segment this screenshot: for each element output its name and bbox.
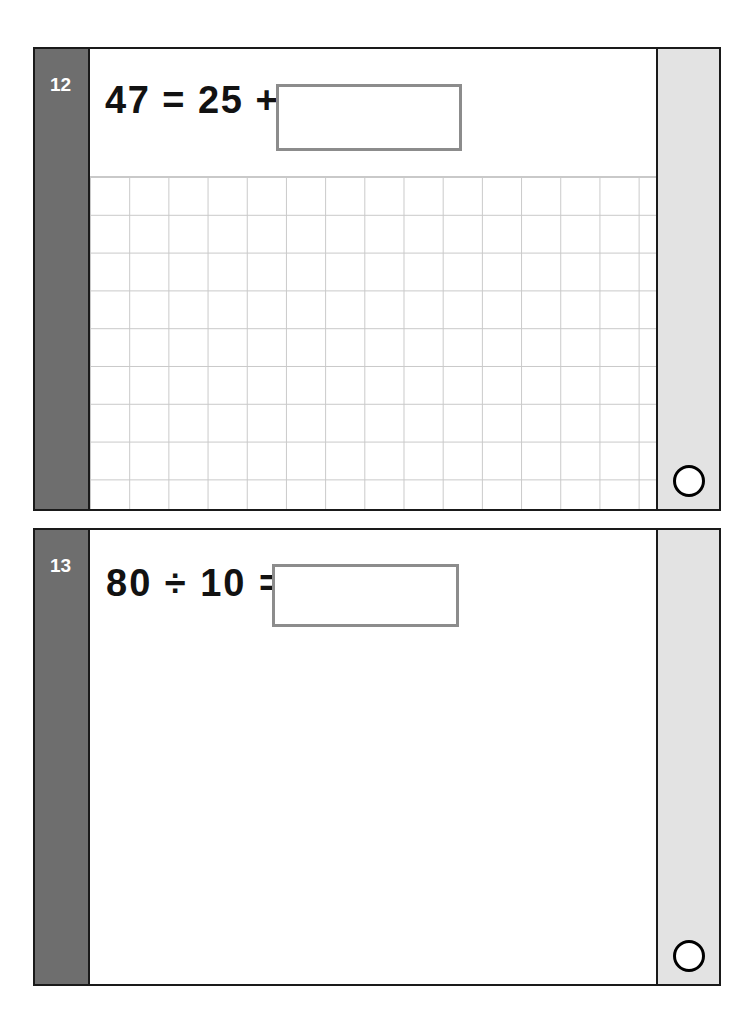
question-number-band: 13 (35, 530, 90, 984)
question-expression: 47 = 25 + (105, 79, 279, 122)
answer-input-box[interactable] (272, 564, 459, 627)
mark-circle-icon[interactable] (673, 940, 705, 972)
mark-circle-icon[interactable] (673, 465, 705, 497)
answer-input-box[interactable] (276, 84, 462, 151)
question-body: 47 = 25 + (90, 49, 656, 509)
question-number-band: 12 (35, 49, 90, 509)
marking-band (656, 530, 719, 984)
marking-band (656, 49, 719, 509)
worksheet-page: 12 47 = 25 + 13 80 ÷ 10 = (0, 0, 730, 1032)
working-out-area[interactable] (90, 657, 656, 984)
question-row: 80 ÷ 10 = (90, 530, 656, 654)
question-number-label: 13 (35, 555, 86, 577)
question-body: 80 ÷ 10 = (90, 530, 656, 984)
question-row: 47 = 25 + (90, 49, 656, 173)
question-expression: 80 ÷ 10 = (106, 562, 283, 605)
question-number-label: 12 (35, 74, 86, 96)
question-card: 13 80 ÷ 10 = (33, 528, 721, 986)
working-out-grid[interactable] (90, 176, 656, 509)
question-card: 12 47 = 25 + (33, 47, 721, 511)
